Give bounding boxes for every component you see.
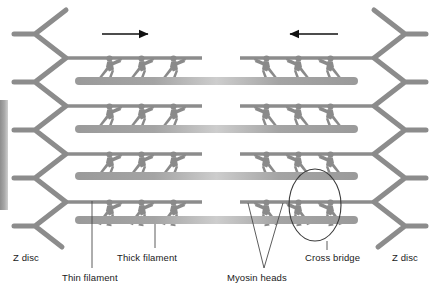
label-thin-filament: Thin filament	[62, 272, 118, 283]
diagram-canvas: Z disc Z disc Thin filament Thick filame…	[0, 0, 440, 299]
label-z-disc-right: Z disc	[392, 252, 418, 263]
label-z-disc-left: Z disc	[13, 252, 39, 263]
label-cross-bridge: Cross bridge	[305, 252, 360, 263]
label-myosin-heads: Myosin heads	[227, 272, 287, 283]
z-disc-right	[374, 10, 426, 247]
z-disc-left	[14, 10, 66, 247]
sarcomere-diagram	[0, 0, 440, 299]
label-thick-filament: Thick filament	[117, 252, 177, 263]
